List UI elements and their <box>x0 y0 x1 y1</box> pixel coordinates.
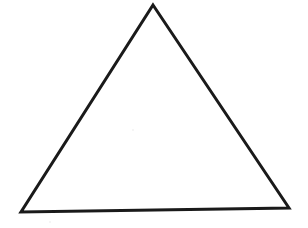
image-canvas <box>0 0 308 228</box>
faint-speck-interior <box>132 129 134 131</box>
triangle-figure <box>0 0 308 228</box>
faint-speck-base-left <box>49 221 51 223</box>
